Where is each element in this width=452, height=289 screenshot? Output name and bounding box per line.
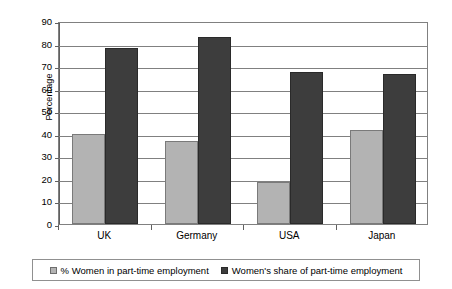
y-axis-tick-label: 20 [26, 175, 52, 185]
y-axis-tick-label: 50 [26, 107, 52, 117]
bar-germany-series-a [165, 141, 198, 224]
category-separator [336, 225, 337, 230]
bar-japan-series-a [350, 130, 383, 224]
x-axis-label-uk: UK [64, 230, 144, 241]
bar-germany-series-b [198, 37, 231, 224]
bar-chart: Percentage 0102030405060708090 UKGermany… [0, 0, 452, 289]
y-axis-tick-label: 0 [26, 220, 52, 230]
series-b-swatch-icon [221, 267, 228, 274]
legend-label-series-b: Women's share of part-time employment [232, 265, 403, 276]
plot-area [58, 22, 428, 225]
bars-layer [59, 23, 427, 224]
y-axis-tick-label: 70 [26, 62, 52, 72]
bar-japan-series-b [383, 74, 416, 224]
x-axis-label-usa: USA [249, 230, 329, 241]
bar-uk-series-a [72, 134, 105, 224]
y-axis-tick-label: 80 [26, 40, 52, 50]
chart-legend: % Women in part-time employment Women's … [32, 259, 420, 281]
y-axis-tick-label: 40 [26, 130, 52, 140]
bar-uk-series-b [105, 48, 138, 224]
category-separator [151, 225, 152, 230]
legend-label-series-a: % Women in part-time employment [61, 265, 209, 276]
legend-item-series-b: Women's share of part-time employment [221, 265, 403, 276]
y-axis-tick-label: 30 [26, 152, 52, 162]
y-axis-tick-label: 10 [26, 197, 52, 207]
y-axis-tick-label: 90 [26, 17, 52, 27]
bar-usa-series-b [290, 72, 323, 224]
category-separator [243, 225, 244, 230]
legend-item-series-a: % Women in part-time employment [50, 265, 209, 276]
x-axis-label-japan: Japan [342, 230, 422, 241]
x-axis-label-germany: Germany [157, 230, 237, 241]
bar-usa-series-a [257, 182, 290, 224]
y-axis-tick-label: 60 [26, 85, 52, 95]
category-separator [58, 225, 59, 230]
series-a-swatch-icon [50, 267, 57, 274]
